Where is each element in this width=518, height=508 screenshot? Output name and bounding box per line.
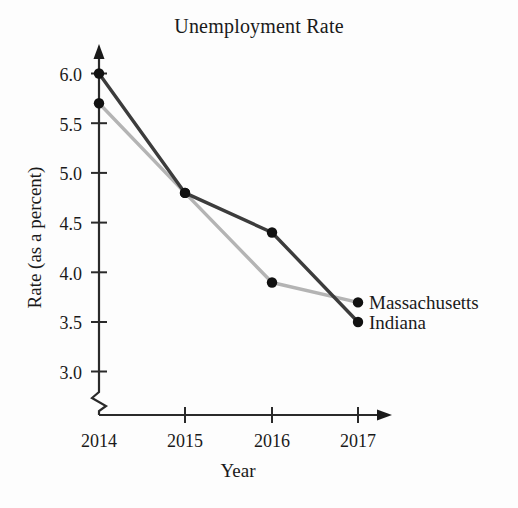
x-tick-label-2017: 2017	[323, 432, 393, 450]
y-tick-label-3-0: 3.0	[36, 364, 82, 382]
y-tick-label-5-5: 5.5	[36, 116, 82, 134]
data-point-markers	[94, 68, 363, 327]
y-axis	[94, 44, 105, 386]
y-tick-label-4-5: 4.5	[36, 215, 82, 233]
data-point-indiana-2016	[267, 227, 277, 237]
chart-title: Unemployment Rate	[0, 16, 518, 36]
y-tick-label-6-0: 6.0	[36, 66, 82, 84]
unemployment-rate-line-chart: Unemployment Rate Year Rate (as a percen…	[0, 0, 518, 508]
y-tick-label-5-0: 5.0	[36, 165, 82, 183]
axis-break-icon	[92, 386, 106, 415]
y-tick-label-3-5: 3.5	[36, 314, 82, 332]
series-label-indiana: Indiana	[369, 313, 426, 332]
x-axis	[99, 410, 392, 421]
data-point-massachusetts-2015	[180, 188, 190, 198]
y-tick-label-4-0: 4.0	[36, 265, 82, 283]
x-tick-label-2016: 2016	[237, 432, 307, 450]
x-tick-label-2014: 2014	[64, 432, 134, 450]
series-line-indiana	[99, 74, 358, 323]
data-point-indiana-2017	[353, 317, 363, 327]
series-line-massachusetts	[99, 103, 358, 302]
y-axis-arrow-icon	[94, 44, 105, 59]
data-point-indiana-2014	[94, 68, 104, 78]
x-axis-title: Year	[0, 461, 476, 480]
data-point-massachusetts-2016	[267, 277, 277, 287]
series-label-massachusetts: Massachusetts	[369, 293, 479, 312]
x-axis-arrow-icon	[377, 410, 392, 421]
data-point-massachusetts-2014	[94, 98, 104, 108]
data-point-massachusetts-2017	[353, 297, 363, 307]
x-tick-label-2015: 2015	[150, 432, 220, 450]
